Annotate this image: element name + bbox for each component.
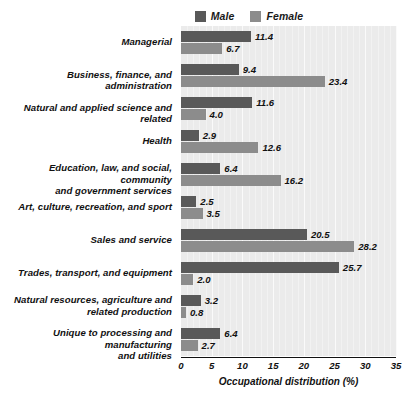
bar-male <box>181 97 252 108</box>
category-label: Trades, transport, and equipment <box>18 267 172 279</box>
x-tick-25: 25 <box>329 360 340 371</box>
bar-female <box>181 340 198 351</box>
bar-male <box>181 130 199 141</box>
bar-value-label: 11.4 <box>255 31 273 42</box>
bar-male <box>181 163 220 174</box>
category-label: Managerial <box>121 36 172 48</box>
category-label: Sales and service <box>91 234 172 246</box>
legend-swatch-female <box>250 11 261 22</box>
bar-value-label: 0.8 <box>190 307 203 318</box>
category-label: Business, finance, and administration <box>0 69 172 92</box>
category-label: Education, law, and social, community an… <box>0 162 172 197</box>
x-axis-title: Occupational distribution (%) <box>181 376 396 387</box>
x-tick-10: 10 <box>237 360 248 371</box>
bar-female <box>181 274 193 285</box>
bar-value-label: 2.7 <box>202 340 215 351</box>
x-tick-5: 5 <box>209 360 214 371</box>
gridline-35 <box>396 26 397 356</box>
plot-area: 11.46.79.423.411.64.02.912.66.416.22.53.… <box>181 26 396 356</box>
bar-value-label: 4.0 <box>210 109 223 120</box>
bar-value-label: 20.5 <box>311 229 330 240</box>
bar-female <box>181 109 206 120</box>
bar-value-label: 23.4 <box>329 76 348 87</box>
bar-female <box>181 208 203 219</box>
x-axis-tick-labels: 05101520253035 <box>181 360 396 374</box>
bar-female <box>181 241 354 252</box>
legend-label-male: Male <box>211 10 235 22</box>
x-tick-0: 0 <box>178 360 183 371</box>
category-label: Natural and applied science and related <box>0 102 172 125</box>
bar-value-label: 12.6 <box>262 142 281 153</box>
category-label: Art, culture, recreation, and sport <box>18 201 172 213</box>
bar-value-label: 2.9 <box>203 130 216 141</box>
bar-value-label: 6.4 <box>224 163 237 174</box>
bar-male <box>181 295 201 306</box>
x-tick-15: 15 <box>268 360 279 371</box>
bar-value-label: 3.2 <box>205 295 218 306</box>
bar-female <box>181 76 325 87</box>
category-axis: ManagerialBusiness, finance, and adminis… <box>0 26 178 356</box>
gridline-30 <box>365 26 366 356</box>
bar-male <box>181 328 220 339</box>
gridline-minor-31 <box>371 26 372 356</box>
x-axis-line <box>181 357 396 358</box>
bar-male <box>181 262 339 273</box>
bar-value-label: 2.0 <box>197 274 210 285</box>
bar-female <box>181 142 258 153</box>
legend-entry-male: Male <box>195 10 235 22</box>
chart-legend: MaleFemale <box>0 7 418 25</box>
bar-female <box>181 175 281 186</box>
gridline-minor-29 <box>359 26 360 356</box>
bar-value-label: 6.7 <box>226 43 239 54</box>
category-label: Unique to processing and manufacturing a… <box>0 327 172 362</box>
x-tick-20: 20 <box>299 360 310 371</box>
bar-male <box>181 31 251 42</box>
occupational-distribution-bar-chart: MaleFemale ManagerialBusiness, finance, … <box>0 0 418 401</box>
gridline-minor-34 <box>390 26 391 356</box>
bar-female <box>181 43 222 54</box>
bar-value-label: 25.7 <box>343 262 362 273</box>
bar-value-label: 9.4 <box>243 64 256 75</box>
category-label: Natural resources, agriculture and relat… <box>14 294 172 317</box>
x-tick-35: 35 <box>391 360 402 371</box>
x-tick-30: 30 <box>360 360 371 371</box>
bar-female <box>181 307 186 318</box>
bar-value-label: 16.2 <box>285 175 304 186</box>
bar-value-label: 6.4 <box>224 328 237 339</box>
bar-value-label: 11.6 <box>256 97 274 108</box>
category-label: Health <box>142 135 172 147</box>
bar-male <box>181 64 239 75</box>
bar-value-label: 2.5 <box>200 196 213 207</box>
legend-entry-female: Female <box>250 10 303 22</box>
bar-male <box>181 196 196 207</box>
bar-value-label: 28.2 <box>358 241 377 252</box>
plot-wrapper: ManagerialBusiness, finance, and adminis… <box>0 26 418 356</box>
gridline-minor-28 <box>353 26 354 356</box>
gridline-minor-33 <box>384 26 385 356</box>
legend-label-female: Female <box>266 10 303 22</box>
legend-swatch-male <box>195 11 206 22</box>
bar-value-label: 3.5 <box>207 208 220 219</box>
gridline-minor-32 <box>378 26 379 356</box>
bar-male <box>181 229 307 240</box>
